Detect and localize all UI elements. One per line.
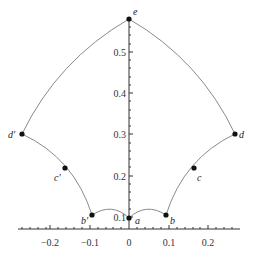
y-tick-label: 0.4	[114, 88, 127, 99]
label-c: c	[197, 172, 202, 183]
point-c	[191, 165, 196, 170]
point-labels: e d′ c′ b′ a b c d	[8, 6, 245, 226]
label-e: e	[133, 6, 138, 17]
label-d-prime: d′	[8, 129, 16, 140]
y-axis-labels: 0.1 0.2 0.3 0.4 0.5	[114, 47, 127, 223]
x-tick-label: 0	[127, 237, 132, 248]
y-tick-label: 0.3	[114, 129, 127, 140]
x-tick-label: −0.1	[81, 237, 99, 248]
point-a	[126, 215, 131, 220]
label-c-prime: c′	[54, 172, 61, 183]
curve-e-to-d	[129, 19, 235, 134]
y-axis	[129, 19, 133, 229]
x-axis-minor-ticks	[22, 225, 232, 229]
y-tick-label: 0.1	[114, 212, 127, 223]
point-d	[232, 131, 237, 136]
point-e	[126, 16, 131, 21]
label-b-prime: b′	[81, 215, 89, 226]
point-b	[163, 212, 168, 217]
label-b: b	[170, 215, 175, 226]
x-axis-labels: −0.2 −0.1 0 0.1 0.2	[41, 237, 214, 248]
y-tick-label: 0.5	[114, 47, 127, 58]
label-d: d	[239, 129, 245, 140]
y-axis-ticks	[129, 27, 133, 217]
x-tick-label: −0.2	[41, 237, 59, 248]
curve-diagram: −0.2 −0.1 0 0.1 0.2	[0, 0, 253, 257]
x-tick-label: 0.2	[202, 237, 215, 248]
y-tick-label: 0.2	[114, 171, 127, 182]
label-a: a	[135, 215, 140, 226]
point-d-prime	[19, 131, 24, 136]
curve-e-to-d-prime	[22, 19, 129, 134]
point-b-prime	[89, 212, 94, 217]
point-c-prime	[62, 165, 67, 170]
x-tick-label: 0.1	[163, 237, 176, 248]
